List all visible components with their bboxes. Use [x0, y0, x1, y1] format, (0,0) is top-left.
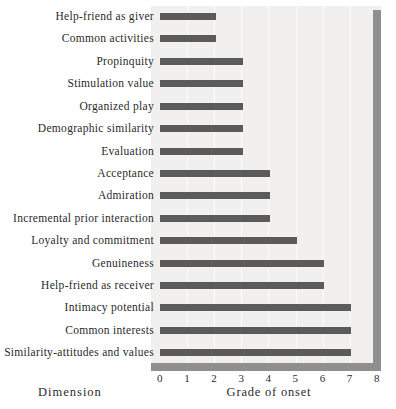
bar	[160, 215, 270, 222]
x-tick-label: 5	[293, 372, 299, 385]
bar	[160, 58, 243, 65]
category-label: Demographic similarity	[38, 121, 154, 136]
category-label: Evaluation	[101, 144, 154, 159]
x-axis-label: Grade of onset	[160, 385, 378, 400]
x-tick-label: 6	[320, 372, 326, 385]
x-tick-label: 1	[184, 372, 190, 385]
bar	[160, 35, 216, 42]
plot-right-wall	[373, 10, 381, 371]
category-label: Incremental prior interaction	[13, 211, 154, 226]
category-label: Help-friend as giver	[55, 9, 154, 24]
x-tick-label: 0	[157, 372, 163, 385]
category-label: Common interests	[65, 323, 154, 338]
x-tick-label: 7	[347, 372, 353, 385]
bar	[160, 125, 243, 132]
x-tick-label: 2	[211, 372, 217, 385]
category-label: Intimacy potential	[65, 300, 154, 315]
x-tick-label: 3	[238, 372, 244, 385]
category-label: Acceptance	[97, 166, 154, 181]
x-tick-label: 8	[374, 372, 380, 385]
bar	[160, 13, 216, 20]
plot-bottom-wall	[151, 363, 381, 371]
category-label: Similarity-attitudes and values	[4, 345, 154, 360]
bar	[160, 260, 324, 267]
category-label: Admiration	[98, 188, 154, 203]
bar	[160, 327, 351, 334]
x-tick-label: 4	[265, 372, 271, 385]
bar-chart: Help-friend as giverCommon activitiesPro…	[0, 0, 396, 409]
bar	[160, 282, 324, 289]
category-label: Organized play	[79, 99, 154, 114]
bar	[160, 192, 270, 199]
category-label: Common activities	[62, 31, 154, 46]
bar	[160, 170, 270, 177]
category-label: Help-friend as receiver	[41, 278, 154, 293]
category-label: Loyalty and commitment	[31, 233, 154, 248]
category-label: Propinquity	[96, 54, 154, 69]
bar	[160, 103, 243, 110]
bar	[160, 237, 297, 244]
category-label: Genuineness	[92, 256, 154, 271]
y-axis-label: Dimension	[38, 385, 102, 400]
bar	[160, 80, 243, 87]
bar	[160, 304, 351, 311]
bar	[160, 349, 351, 356]
category-label: Stimulation value	[67, 76, 154, 91]
bar	[160, 148, 243, 155]
